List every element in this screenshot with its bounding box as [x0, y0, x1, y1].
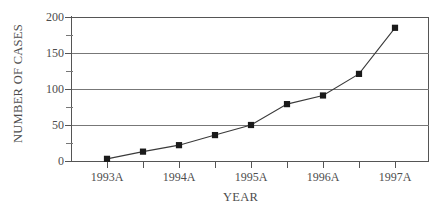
series-markers	[104, 25, 398, 162]
data-point-1997A	[392, 25, 398, 31]
data-series	[0, 0, 445, 219]
data-point-1993A	[104, 156, 110, 162]
line-chart-figure: NUMBER OF CASES 200 150 100 50 0 1993A 1…	[0, 0, 445, 219]
data-point-1995B	[284, 101, 290, 107]
data-point-1994B	[212, 132, 218, 138]
data-point-1996B	[356, 71, 362, 77]
series-line	[107, 28, 395, 159]
data-point-1996A	[320, 92, 326, 98]
data-point-1993B	[140, 149, 146, 155]
data-point-1995A	[248, 122, 254, 128]
data-point-1994A	[176, 142, 182, 148]
